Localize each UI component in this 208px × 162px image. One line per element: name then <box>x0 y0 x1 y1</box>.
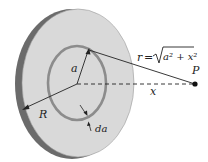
label-R: R <box>38 108 47 121</box>
label-r: r <box>137 51 143 64</box>
label-da: da <box>95 123 107 134</box>
disk-diagram: a R da x P r = a² + x² <box>0 0 208 162</box>
label-equals: = <box>144 51 153 64</box>
label-a: a <box>71 62 78 75</box>
disk-face <box>22 9 134 157</box>
label-radicand: a² + x² <box>163 51 197 62</box>
label-x: x <box>150 85 157 98</box>
point-P <box>192 81 197 86</box>
diagram-canvas: a R da x P r = a² + x² <box>0 0 208 162</box>
label-P: P <box>191 64 200 77</box>
